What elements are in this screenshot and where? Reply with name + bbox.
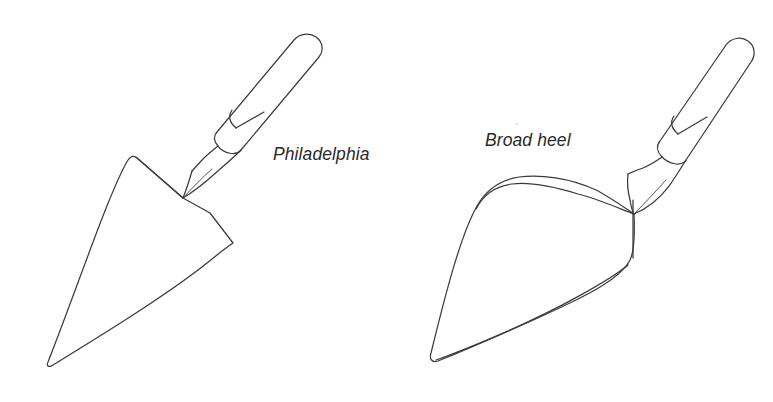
trowels-illustration (0, 0, 773, 402)
blade-heel-line-philadelphia (137, 158, 183, 198)
label-broad-heel: Broad heel (485, 130, 571, 151)
trowel-philadelphia (47, 34, 322, 366)
handle-philadelphia (214, 34, 322, 153)
handle-broad-heel (658, 38, 755, 164)
figure-canvas: Philadelphia Broad heel (0, 0, 773, 402)
shank-inner-line-broad-heel (634, 180, 666, 214)
neck-broad-heel (628, 157, 662, 174)
scan-speck (516, 123, 518, 125)
ferrule-band-broad-heel (678, 117, 707, 134)
blade-broad-heel (430, 176, 634, 361)
blade-inner-fold-broad-heel (436, 265, 628, 360)
ferrule-band-philadelphia (236, 112, 264, 128)
shank-inner-line-philadelphia (183, 169, 212, 198)
trowel-broad-heel (430, 38, 754, 361)
neck-philadelphia (192, 146, 218, 171)
label-philadelphia: Philadelphia (273, 144, 370, 165)
blade-philadelphia (47, 156, 233, 366)
shank-edge-philadelphia (183, 171, 192, 198)
